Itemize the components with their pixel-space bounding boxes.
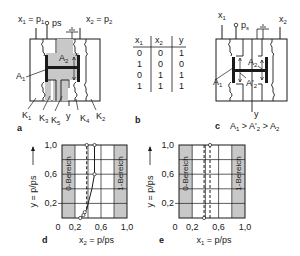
input-x1-label: x1 = p1 [18,14,45,25]
input-x2-label: x2 = p2 [86,14,113,25]
y-tick-label: 0,6 [44,169,57,179]
y-axis-label: y = p/ps [28,175,38,207]
svg-text:1: 1 [158,70,163,80]
panel-c-valve-diagram: x1 ps x2 [213,10,288,132]
area-A1-label: A1 [16,71,26,82]
x-tick-label: 0 [55,222,60,232]
table-row: 0 0 1 [137,48,184,58]
supply-ps-label: ps [241,20,249,31]
chamber-K1-label: K1 [22,110,32,121]
x-tick-label: 0 [172,222,177,232]
x-tick-label: 0,6 [212,222,225,232]
region-label: 0-Bereich [181,156,190,190]
x-tick-label: 0,2 [69,222,82,232]
panel-a-valve-diagram: x1 = p1 ps x2 = p2 [16,14,113,133]
piston-rod [47,66,78,69]
y-tick-label: 0,2 [161,198,174,208]
area-relation-caption: A1 > A'2 > A2 [230,121,280,132]
x-tick-label: 1,0 [121,222,134,232]
region-label: 1-Bereich [116,156,125,190]
data-point-marker [93,143,96,146]
x-tick-label: 0,6 [95,222,108,232]
x-tick-label: 1,0 [239,222,252,232]
chart-d-characteristic: 0-Bereich1-Bereich0,20,61,000,20,61,0y =… [28,140,133,246]
table-header-y: y [179,35,184,45]
panel-b-truth-table: x1 x2 y 0 0 1 1 0 0 0 1 1 1 1 1 b [133,35,186,125]
y-tick-label: 0,6 [161,169,174,179]
table-header-x1: x1 [135,35,144,46]
panel-d-label: d [42,235,48,245]
svg-text:0: 0 [137,70,142,80]
data-point-marker [93,173,96,176]
svg-text:0: 0 [137,48,142,58]
svg-text:0: 0 [158,48,163,58]
region-label: 1-Bereich [234,156,243,190]
chamber-K3-label: K3 [39,113,49,124]
data-point-marker [83,211,86,214]
output-y-label: y [254,109,259,119]
data-point-marker [202,216,205,219]
supply-ps-label: ps [52,18,62,28]
chart-e-characteristic: 0-Bereich1-Bereich0,20,61,000,20,61,0y =… [145,140,251,246]
output-y-label: y [66,111,71,121]
supply-port-icon [234,23,238,27]
region-label: 0-Bereich [64,156,73,190]
svg-text:1: 1 [179,70,184,80]
table-row: 1 1 1 [137,81,184,91]
table-header-x2: x2 [155,35,164,46]
svg-text:1: 1 [137,59,142,69]
data-point-marker [85,143,88,146]
arrow-up-icon [31,146,35,151]
y-axis-label: y = p/ps [145,175,155,207]
y-tick-label: 1,0 [161,140,174,150]
svg-text:1: 1 [158,81,163,91]
input-x2-label: x2 [279,14,288,25]
supply-port-icon [45,21,49,25]
table-row: 0 1 1 [137,70,184,80]
y-tick-label: 0,2 [44,198,57,208]
figure-canvas: x1 = p1 ps x2 = p2 [0,0,300,256]
exhaust-vent-icon [66,28,78,39]
x-axis-label: x1 = p/ps [196,235,232,246]
svg-text:1: 1 [179,81,184,91]
svg-text:1: 1 [137,81,142,91]
svg-text:1: 1 [179,48,184,58]
table-row: 1 0 0 [137,59,184,69]
panel-b-label: b [135,115,141,125]
y-tick-label: 1,0 [44,140,57,150]
input-x1-label: x1 [218,10,227,21]
panel-c-label: c [215,121,220,131]
piston-rod [234,69,266,72]
data-point-marker [79,216,82,219]
exhaust-vent-icon [257,25,269,39]
panel-e-label: e [159,235,164,245]
x-tick-label: 0,2 [186,222,199,232]
chamber-K5-label: K5 [51,115,61,126]
x-axis-label: x2 = p/ps [79,235,115,246]
chamber-K2-label: K2 [96,111,106,122]
arrow-up-icon [148,146,152,151]
svg-text:0: 0 [158,59,163,69]
svg-text:0: 0 [179,59,184,69]
panel-a-label: a [17,123,23,133]
chamber-K4-label: K4 [80,113,90,124]
port-lines [222,25,280,39]
data-point-marker [208,143,211,146]
